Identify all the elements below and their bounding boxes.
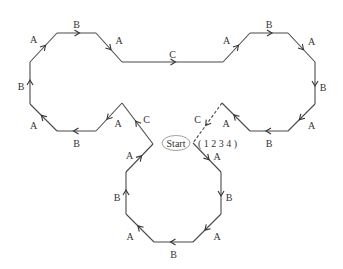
edge-label: A <box>30 120 38 131</box>
edge-label: A <box>213 231 221 242</box>
edge-label: A <box>222 118 230 129</box>
edge-label: B <box>170 249 177 260</box>
start-label: Start <box>167 138 186 149</box>
edge-label: B <box>73 19 80 30</box>
start-node: Start <box>162 136 190 151</box>
edge-label: C <box>169 49 176 60</box>
edge-label: A <box>223 35 231 46</box>
edge-label: A <box>30 34 38 45</box>
edge-label: C <box>143 114 150 125</box>
edge-label: B <box>114 192 121 203</box>
permutation-label: ( 1 2 3 4 ) <box>198 138 237 150</box>
edge-label: A <box>126 231 134 242</box>
edge-label: B <box>266 19 273 30</box>
arrowhead-icon <box>206 120 211 126</box>
cayley-graph-diagram: ABACABABABACABABABACABAB Start ( 1 2 3 4… <box>0 0 343 269</box>
edge-label: A <box>115 35 123 46</box>
edge-label: C <box>194 114 201 125</box>
edge-label: A <box>308 120 316 131</box>
edge-label: B <box>320 82 327 93</box>
edge-label: B <box>266 138 273 149</box>
edge-label: B <box>73 138 80 149</box>
edge-label: B <box>18 81 25 92</box>
edge-label: B <box>226 192 233 203</box>
edge-label: A <box>213 151 221 162</box>
edge-label: A <box>114 118 122 129</box>
edge-label: A <box>126 150 134 161</box>
edge-label: A <box>308 36 316 47</box>
